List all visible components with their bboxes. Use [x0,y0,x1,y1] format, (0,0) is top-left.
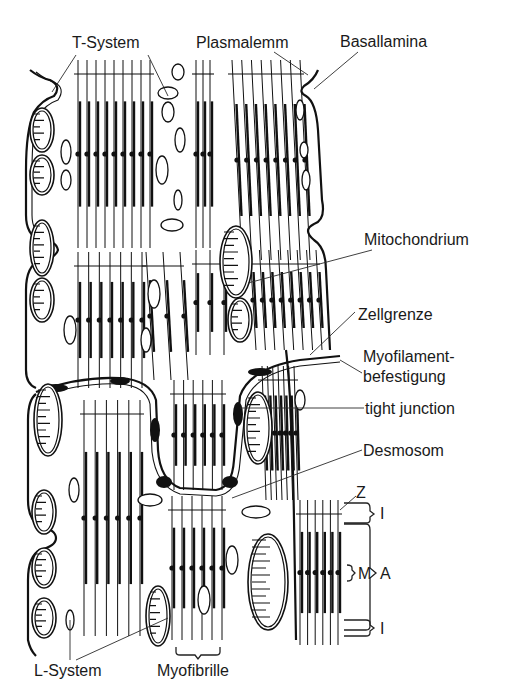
m-line-dot [181,313,186,318]
tubule [61,140,71,164]
m-line-dot [118,317,123,322]
tubule [302,170,310,190]
m-line-dot [313,570,318,575]
desmosome-6 [248,368,272,376]
tubule [295,390,305,410]
m-line-dot [189,565,194,570]
m-line-dot [129,151,134,156]
tubule [64,316,76,344]
m-line-dot [120,151,125,156]
m-line-dot [288,297,293,302]
m-line-dot [279,297,284,302]
brace-m [347,565,355,581]
m-line-dot [129,317,134,322]
label-plasmalemm: Plasmalemm [196,34,288,51]
tubule [175,128,185,152]
m-line-dot [335,570,340,575]
leader-basallamina [314,52,358,89]
m-line-dot [298,297,303,302]
m-line-dot [104,515,109,520]
m-line-dot [75,317,80,322]
m-line-dot [200,432,205,437]
label-basallamina: Basallamina [340,33,427,50]
label-z: Z [356,484,366,501]
m-line-dot [75,151,80,156]
m-line-dot [179,565,184,570]
tubule [242,506,270,518]
desmosome-4 [222,476,238,488]
m-line-dot [234,157,239,162]
tubule [141,328,151,352]
m-line-dot [209,565,214,570]
m-line-dot [107,317,112,322]
tubule [174,190,182,210]
label-zellgrenze: Zellgrenze [358,306,433,323]
desmosome-2 [150,418,160,442]
diagram-structures [26,60,342,656]
m-line-dot [221,300,226,305]
tubule [226,546,238,574]
mitochondrion [244,392,272,464]
m-line-dot [137,515,142,520]
brace-i-top [344,503,374,523]
label-myofilament-line2: befestigung [363,368,446,385]
m-line-dot [193,300,198,305]
m-line-dot [191,432,196,437]
m-line-dot [93,151,98,156]
m-line-dot [207,300,212,305]
m-line-dot [84,151,89,156]
m-line-dot [328,570,333,575]
m-line-dot [273,157,278,162]
tubule [156,156,168,184]
brace-myofibrille [176,647,220,659]
m-line-dot [138,151,143,156]
tubule [161,219,183,231]
leader-zellgrenze [310,312,355,355]
tubule [69,478,79,502]
m-line-dot [169,565,174,570]
desmosome-3 [156,476,172,488]
mitochondrion [34,384,62,456]
m-line-dot [93,515,98,520]
m-line-dot [139,317,144,322]
m-line-dot [102,151,107,156]
label-mitochondrium: Mitochondrium [364,231,469,248]
label-myofibrille: Myofibrille [157,662,229,679]
m-line-dot [111,151,116,156]
leader-t-system-right [148,55,168,96]
m-line-dot [293,157,298,162]
m-line-dot [288,430,293,435]
m-line-dot [244,157,249,162]
m-line-dot [293,430,298,435]
m-line-dot [126,515,131,520]
m-line-dot [320,570,325,575]
label-m: M [358,565,371,582]
m-line-dot [283,430,288,435]
tubule [148,280,160,308]
desmosome-1 [110,377,130,385]
m-line-dot [305,570,310,575]
m-line-dot [269,297,274,302]
m-line-dot [181,432,186,437]
tubule [158,87,178,99]
m-line-dot [307,297,312,302]
m-line-dot [207,151,212,156]
label-myofilament-line1: Myofilament- [363,348,455,365]
m-line-dot [316,297,321,302]
tubule [296,100,304,120]
leader-myofilament [340,360,362,373]
m-line-dot [86,317,91,322]
m-line-dot [171,432,176,437]
leader-t-system-left [52,55,76,92]
m-line-dot [97,317,102,322]
tubule [162,102,174,122]
label-desmosom: Desmosom [363,442,444,459]
mitochondrion [220,226,252,298]
m-line-dot [115,515,120,520]
basal-lamina-left-upper [32,72,61,236]
desmosome-5 [233,402,243,426]
m-line-dot [219,565,224,570]
m-line-dot [283,157,288,162]
tubule [300,142,308,158]
label-tight-junction: tight junction [365,400,455,417]
